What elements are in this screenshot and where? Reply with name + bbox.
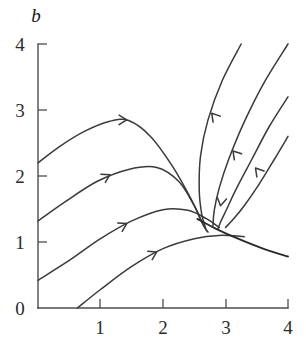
y-tick-label-0: 0 xyxy=(15,298,25,319)
trajectory-curve xyxy=(218,97,288,229)
trajectory-curve xyxy=(199,44,241,227)
x-axis-ticks xyxy=(100,299,288,308)
flow-direction-arrow xyxy=(212,113,221,122)
y-tick-label-2: 2 xyxy=(15,166,25,187)
x-tick-label-1: 1 xyxy=(95,317,105,338)
x-tick-label-2: 2 xyxy=(158,317,168,338)
x-tick-label-3: 3 xyxy=(221,317,231,338)
trajectory-curve xyxy=(197,219,288,257)
trajectory-curve xyxy=(38,209,219,281)
x-tick-label-4: 4 xyxy=(283,317,293,338)
y-tick-label-4: 4 xyxy=(15,34,25,55)
trajectory-curve xyxy=(77,235,244,308)
trajectory-curve xyxy=(38,119,207,231)
trajectory-curve xyxy=(38,167,208,233)
y-tick-label-1: 1 xyxy=(15,232,25,253)
trajectories-group xyxy=(38,44,288,308)
phase-plane-chart: 4 3 2 1 0 1 2 3 4 b xyxy=(0,0,306,355)
y-axis-ticks xyxy=(38,44,47,242)
phase-portrait-figure: 4 3 2 1 0 1 2 3 4 b xyxy=(0,0,306,355)
axes-group xyxy=(38,44,288,308)
flow-direction-arrow xyxy=(217,197,226,205)
flow-direction-arrow xyxy=(256,168,265,177)
y-axis-label: b xyxy=(31,5,41,26)
y-tick-label-3: 3 xyxy=(15,100,25,121)
flow-direction-arrow xyxy=(233,151,242,160)
